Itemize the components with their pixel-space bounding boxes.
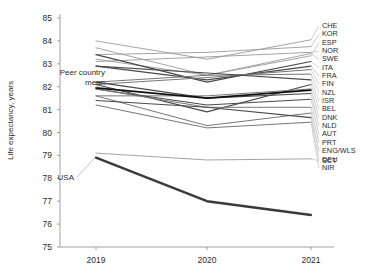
annotation-leader-usa bbox=[77, 158, 95, 177]
y-axis-title: Life expectancy, years bbox=[6, 81, 15, 160]
series-line-che bbox=[96, 40, 311, 59]
y-axis-tick-label: 76 bbox=[43, 219, 53, 229]
x-axis-tick-label: 2021 bbox=[302, 255, 321, 265]
y-axis-tick-label: 80 bbox=[43, 128, 53, 138]
y-axis-tick-label: 75 bbox=[43, 242, 53, 252]
series-line-usa bbox=[96, 158, 311, 215]
label-leader-swe bbox=[311, 53, 319, 59]
label-leader-che bbox=[311, 26, 319, 40]
y-axis-tick-label: 82 bbox=[43, 82, 53, 92]
y-axis-tick-label: 83 bbox=[43, 59, 53, 69]
annotation-peer-country-mean-line2: mean bbox=[85, 78, 105, 87]
y-axis-tick-label: 77 bbox=[43, 196, 53, 206]
country-label-sct: SCT bbox=[322, 156, 337, 165]
y-axis-tick-label: 84 bbox=[43, 36, 53, 46]
y-axis-tick-label: 81 bbox=[43, 105, 53, 115]
label-leader-nor bbox=[311, 51, 319, 52]
chart-container: 7576777879808182838485201920202021Life e… bbox=[0, 0, 369, 278]
y-axis-tick-label: 79 bbox=[43, 150, 53, 160]
annotation-peer-country-mean-line1: Peer country bbox=[60, 68, 105, 77]
slopegraph-svg: 7576777879808182838485201920202021Life e… bbox=[0, 0, 369, 278]
label-leader-ita bbox=[311, 62, 319, 68]
series-line-fin bbox=[96, 70, 311, 85]
x-axis-tick-label: 2019 bbox=[87, 255, 106, 265]
y-axis-tick-label: 85 bbox=[43, 13, 53, 23]
series-line-esp bbox=[96, 48, 311, 75]
series-line-sct bbox=[96, 153, 311, 160]
series-line-peer-country-mean bbox=[96, 88, 311, 98]
y-axis-tick-label: 78 bbox=[43, 173, 53, 183]
x-axis-tick-label: 2020 bbox=[198, 255, 217, 265]
label-leader-fra bbox=[311, 66, 319, 76]
annotation-usa: USA bbox=[58, 173, 75, 182]
series-line-deu bbox=[96, 100, 311, 117]
